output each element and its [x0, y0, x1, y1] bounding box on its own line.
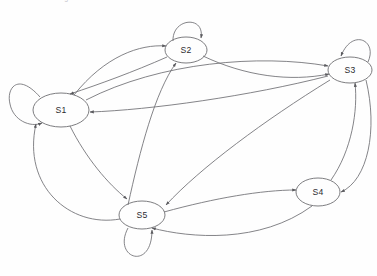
edge-s5-s4 — [164, 190, 296, 212]
diagram-canvas: state transition diagram — [0, 0, 377, 276]
node-s1-label: S1 — [56, 105, 67, 115]
edge-s4-s5 — [152, 206, 312, 236]
edge-s3-s1 — [90, 76, 328, 112]
edge-s5-s2 — [128, 63, 176, 205]
node-s5-label: S5 — [137, 210, 148, 220]
node-s2-label: S2 — [181, 45, 192, 55]
edge-s1-s3 — [86, 61, 328, 100]
edge-s2-s3 — [203, 56, 329, 77]
state-diagram-svg: S1 S2 S3 S4 S5 — [0, 0, 377, 276]
nodes-layer: S1 S2 S3 S4 S5 — [33, 37, 372, 229]
edge-s2-s1 — [70, 57, 167, 94]
edge-s1-s5 — [70, 126, 127, 199]
node-s4[interactable]: S4 — [296, 178, 340, 206]
edge-s4-s3 — [331, 83, 356, 180]
node-s2[interactable]: S2 — [165, 37, 207, 63]
node-s4-label: S4 — [313, 187, 324, 197]
node-s1[interactable]: S1 — [33, 93, 89, 127]
node-s5[interactable]: S5 — [119, 201, 165, 229]
edge-s5-s5-selfloop — [124, 228, 152, 256]
node-s3-label: S3 — [345, 65, 356, 75]
node-s3[interactable]: S3 — [328, 57, 372, 83]
